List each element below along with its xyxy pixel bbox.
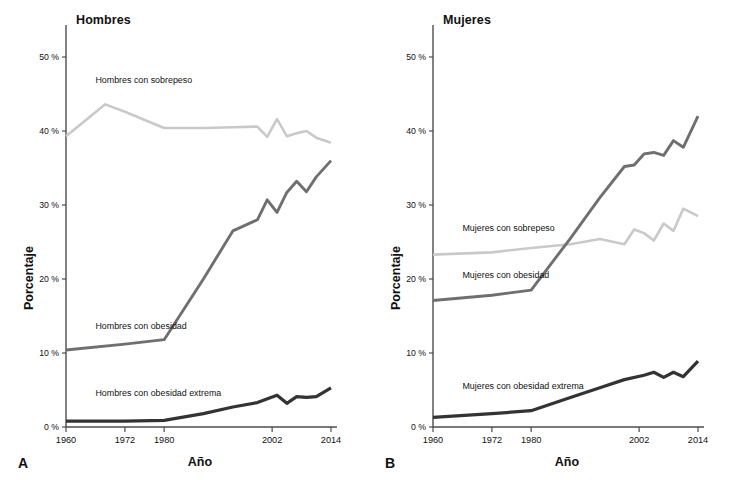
y-tick-label: 30 % <box>39 200 59 210</box>
y-tick-label: 50 % <box>406 52 426 62</box>
y-tick-label: 10 % <box>39 348 59 358</box>
series-line <box>66 104 331 142</box>
series-annotation-obesidad: Hombres con obesidad <box>95 321 186 331</box>
axis-spine <box>66 25 337 427</box>
x-tick-label: 1980 <box>154 435 174 445</box>
y-tick-label: 20 % <box>39 274 59 284</box>
panel-a-plot: 0 %10 %20 %30 %40 %50 %19601972198020022… <box>0 0 367 480</box>
series-annotation-sobrepeso: Hombres con sobrepeso <box>95 75 192 85</box>
y-tick-label: 40 % <box>39 126 59 136</box>
x-tick-label: 1972 <box>115 435 135 445</box>
y-tick-label: 10 % <box>406 348 426 358</box>
y-tick-label: 0 % <box>411 422 426 432</box>
panel-b-plot: 0 %10 %20 %30 %40 %50 %19601972198020022… <box>367 0 734 480</box>
x-tick-label: 1960 <box>423 435 443 445</box>
series-annotation-sobrepeso: Mujeres con sobrepeso <box>462 223 554 233</box>
series-annotation-obesidad: Mujeres con obesidad <box>462 270 549 280</box>
figure-root: Hombres A Porcentaje Año 0 %10 %20 %30 %… <box>0 0 734 480</box>
x-tick-label: 1960 <box>56 435 76 445</box>
x-tick-label: 2014 <box>321 435 341 445</box>
panel-hombres: Hombres A Porcentaje Año 0 %10 %20 %30 %… <box>0 0 367 480</box>
y-tick-label: 40 % <box>406 126 426 136</box>
x-tick-label: 2002 <box>629 435 649 445</box>
series-annotation-obesidad-extrema: Mujeres con obesidad extrema <box>462 381 583 391</box>
series-annotation-obesidad-extrema: Hombres con obesidad extrema <box>95 388 221 398</box>
y-tick-label: 30 % <box>406 200 426 210</box>
x-tick-label: 1972 <box>482 435 502 445</box>
y-tick-label: 50 % <box>39 52 59 62</box>
y-tick-label: 0 % <box>44 422 59 432</box>
panel-mujeres: Mujeres B Porcentaje Año 0 %10 %20 %30 %… <box>367 0 734 480</box>
x-tick-label: 2002 <box>262 435 282 445</box>
x-tick-label: 2014 <box>688 435 708 445</box>
x-tick-label: 1980 <box>521 435 541 445</box>
y-tick-label: 20 % <box>406 274 426 284</box>
